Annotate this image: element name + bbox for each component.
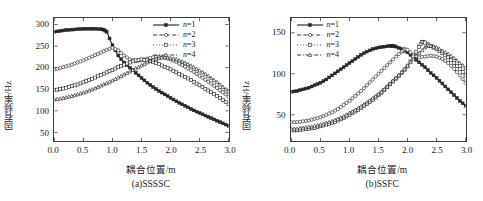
panel-caption-b: (b)SSFC <box>242 179 483 189</box>
legend-item: n=3 <box>152 40 196 50</box>
x-tick-label: 1.5 <box>372 145 383 155</box>
x-tick-label: 2.5 <box>431 145 442 155</box>
y-tick-label: 150 <box>265 27 286 37</box>
x-tick-label: 0.5 <box>77 145 88 155</box>
legend-line-sample-filled-square-icon <box>152 20 180 30</box>
x-axis-label-a: 耦合位置/m <box>0 162 272 176</box>
y-tick-label: 50 <box>265 110 286 120</box>
y-tick-label: 250 <box>28 41 49 51</box>
legend-label: n=2 <box>327 30 340 41</box>
x-tick-label: 0.5 <box>313 145 324 155</box>
legend-item: n=1 <box>296 20 340 30</box>
panel-caption-a: (a)SSSSC <box>0 179 272 189</box>
legend-label: n=1 <box>327 20 340 31</box>
legend-item: n=4 <box>296 50 340 60</box>
legend-item: n=4 <box>152 50 196 60</box>
legend-label: n=4 <box>327 50 340 61</box>
legend-line-sample-open-square-icon <box>296 40 324 50</box>
y-tick-label: 150 <box>28 84 49 94</box>
legend-line-sample-triangle-icon <box>296 50 324 60</box>
legend-line-sample-triangle-icon <box>152 50 180 60</box>
x-tick-label: 0.0 <box>47 145 58 155</box>
legend-line-sample-open-square-icon <box>152 40 180 50</box>
legend-line-sample-circle-icon <box>152 30 180 40</box>
figure-two-panel-chart: 固有频率/Hz 50100150200250300 0.00.51.01.52.… <box>0 0 483 201</box>
legend-line-sample-filled-square-icon <box>296 20 324 30</box>
chart-panel-a: 固有频率/Hz 50100150200250300 0.00.51.01.52.… <box>0 0 242 201</box>
legend-item: n=2 <box>296 30 340 40</box>
x-tick-label: 3.0 <box>461 145 472 155</box>
legend-label: n=1 <box>183 20 196 31</box>
y-tick-label: 50 <box>28 128 49 138</box>
legend-item: n=2 <box>152 30 196 40</box>
legend-item: n=3 <box>296 40 340 50</box>
x-axis-label-b: 耦合位置/m <box>242 162 483 176</box>
y-tick-label: 100 <box>28 106 49 116</box>
plot-area-a <box>53 17 230 142</box>
x-tick-label: 1.5 <box>136 145 147 155</box>
legend-label: n=2 <box>183 30 196 41</box>
chart-panel-b: 固有频率/Hz 50100150 0.00.51.01.52.02.53.0 n… <box>242 0 483 201</box>
x-tick-label: 2.0 <box>402 145 413 155</box>
y-tick-label: 100 <box>265 69 286 79</box>
y-tick-label: 300 <box>28 19 49 29</box>
legend-label: n=3 <box>183 40 196 51</box>
legend-line-sample-circle-icon <box>296 30 324 40</box>
x-tick-label: 1.0 <box>343 145 354 155</box>
x-tick-label: 2.5 <box>195 145 206 155</box>
y-axis-label-a: 固有频率/Hz <box>4 30 13 130</box>
y-tick-label: 200 <box>28 62 49 72</box>
curves-a <box>54 18 229 141</box>
x-tick-label: 2.0 <box>165 145 176 155</box>
y-axis-label-b: 固有频率/Hz <box>242 30 251 130</box>
x-tick-label: 0.0 <box>284 145 295 155</box>
x-tick-label: 1.0 <box>106 145 117 155</box>
legend-b: n=1n=2n=3n=4 <box>296 20 340 60</box>
legend-label: n=3 <box>327 40 340 51</box>
legend-a: n=1n=2n=3n=4 <box>152 20 196 60</box>
legend-item: n=1 <box>152 20 196 30</box>
x-tick-label: 3.0 <box>224 145 235 155</box>
legend-label: n=4 <box>183 50 196 61</box>
